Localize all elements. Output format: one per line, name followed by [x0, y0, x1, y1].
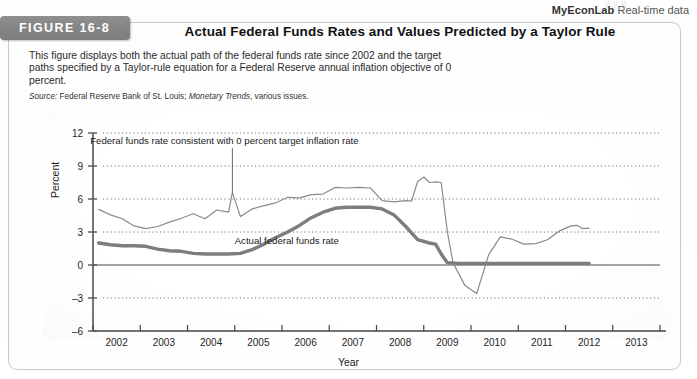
svg-text:2003: 2003 [153, 337, 176, 348]
svg-text:12: 12 [72, 128, 84, 139]
chart-svg: Federal funds rate consistent with 0 per… [0, 0, 697, 379]
svg-text:Federal funds rate consistent: Federal funds rate consistent with 0 per… [90, 135, 358, 146]
data-series [99, 177, 589, 294]
svg-text:2007: 2007 [342, 337, 365, 348]
svg-text:9: 9 [77, 161, 83, 172]
chart-annotations: Federal funds rate consistent with 0 per… [90, 135, 358, 246]
x-axis-title: Year [0, 356, 697, 368]
grid-lines [93, 133, 660, 298]
y-axis-title: Percent [49, 162, 61, 198]
svg-text:6: 6 [77, 194, 83, 205]
svg-text:2011: 2011 [531, 337, 553, 348]
svg-text:2012: 2012 [578, 337, 601, 348]
figure-page: y y g MyEconLab Real-time data FIGURE 16… [0, 0, 697, 379]
svg-text:2004: 2004 [200, 337, 223, 348]
axes [93, 133, 666, 331]
svg-text:2009: 2009 [436, 337, 459, 348]
svg-text:2005: 2005 [247, 337, 270, 348]
svg-text:0: 0 [77, 260, 83, 271]
svg-text:3: 3 [77, 227, 83, 238]
x-axis-ticks: 2002200320042005200620072008200920102011… [93, 325, 660, 348]
svg-text:2008: 2008 [389, 337, 412, 348]
svg-text:–6: –6 [72, 326, 84, 337]
svg-text:–3: –3 [72, 293, 84, 304]
svg-text:2013: 2013 [625, 337, 648, 348]
svg-text:2006: 2006 [295, 337, 318, 348]
svg-text:2002: 2002 [106, 337, 129, 348]
svg-text:Actual federal funds rate: Actual federal funds rate [235, 235, 339, 246]
svg-text:2010: 2010 [484, 337, 507, 348]
